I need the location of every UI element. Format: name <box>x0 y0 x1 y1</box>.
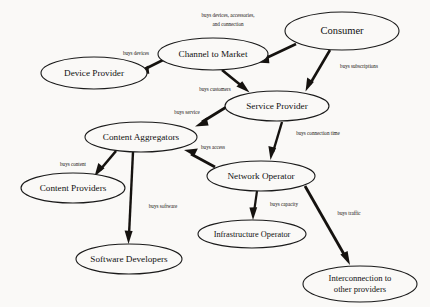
node-label-service-provider: Service Provider <box>246 101 308 111</box>
edge-label-buys-customers: buys customers <box>199 86 231 92</box>
value-network-diagram: buys devices, accessories, and connectio… <box>0 0 430 307</box>
arrowhead-icon <box>195 118 209 127</box>
edge-line <box>310 50 330 84</box>
node-channel-to-market[interactable]: Channel to Market <box>158 38 268 70</box>
node-network-operator[interactable]: Network Operator <box>207 161 315 191</box>
edge-label-buys-connection-time: buys connection time <box>296 130 340 136</box>
node-device-provider[interactable]: Device Provider <box>41 57 147 89</box>
node-consumer[interactable]: Consumer <box>285 12 399 50</box>
node-content-providers[interactable]: Content Providers <box>21 173 125 203</box>
edge-network-operator-to-interconnection <box>305 186 350 265</box>
node-label-interconnection-line2: other providers <box>334 284 387 294</box>
node-label-infrastructure-operator: Infrastructure Operator <box>214 230 291 239</box>
arrowhead-icon <box>249 207 257 220</box>
node-interconnection[interactable]: Interconnection to other providers <box>303 266 417 302</box>
edge-service-provider-to-content-aggregators <box>195 106 228 127</box>
edge-label-buys-access: buys access <box>201 144 225 150</box>
node-label-interconnection-line1: Interconnection to <box>329 273 392 283</box>
edge-network-operator-to-infrastructure-operator <box>249 191 257 220</box>
node-layer: Consumer Channel to Market Device Provid… <box>21 12 417 302</box>
edge-network-operator-to-content-aggregators <box>184 149 215 167</box>
node-label-network-operator: Network Operator <box>227 171 294 181</box>
edge-content-aggregators-to-content-providers <box>95 151 117 177</box>
edge-label-buys-content: buys content <box>60 161 86 167</box>
edge-consumer-to-service-provider <box>306 50 331 92</box>
edge-label-consumer-to-channel-line1: buys devices, accessories, <box>202 12 255 18</box>
arrowhead-icon <box>125 231 133 245</box>
node-service-provider[interactable]: Service Provider <box>225 91 329 121</box>
edge-label-buys-traffic: buys traffic <box>337 210 361 216</box>
edge-content-aggregators-to-software-developers <box>125 152 133 244</box>
node-label-channel-to-market: Channel to Market <box>179 49 248 59</box>
node-content-aggregators[interactable]: Content Aggregators <box>85 122 197 152</box>
edge-label-buys-subscriptions: buys subscriptions <box>340 63 378 69</box>
edge-label-buys-devices: buys devices <box>123 50 149 56</box>
edge-service-provider-to-network-operator <box>268 122 282 160</box>
node-software-developers[interactable]: Software Developers <box>76 244 182 274</box>
node-label-consumer: Consumer <box>320 25 364 36</box>
node-label-content-providers: Content Providers <box>40 183 107 193</box>
diagram-canvas: buys devices, accessories, and connectio… <box>0 0 430 307</box>
node-label-software-developers: Software Developers <box>90 254 168 264</box>
edge-line <box>305 186 345 256</box>
edge-line <box>129 152 133 235</box>
edge-label-consumer-to-channel-line2: and connection <box>213 21 244 27</box>
edge-label-buys-service: buys service <box>174 109 200 115</box>
arrowhead-icon <box>268 146 276 160</box>
edge-line <box>273 122 282 152</box>
edge-label-buys-capacity: buys capacity <box>270 201 298 207</box>
node-label-content-aggregators: Content Aggregators <box>103 132 180 142</box>
node-infrastructure-operator[interactable]: Infrastructure Operator <box>198 220 306 248</box>
edge-line <box>191 154 215 167</box>
node-label-device-provider: Device Provider <box>64 68 124 78</box>
edge-label-buys-software: buys software <box>149 203 178 209</box>
